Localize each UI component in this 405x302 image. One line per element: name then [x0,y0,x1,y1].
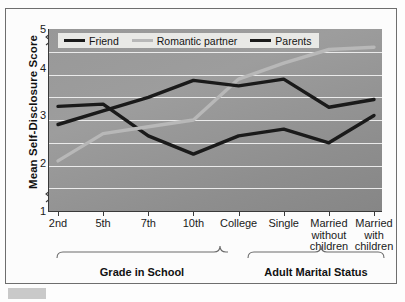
chart-figure: Mean Self-Disclosure Score 5 4 3 2 1 Fri… [0,0,405,302]
group-label-marital: Adult Marital Status [248,266,384,278]
group-label-school: Grade in School [57,266,227,278]
group-braces [0,0,405,302]
